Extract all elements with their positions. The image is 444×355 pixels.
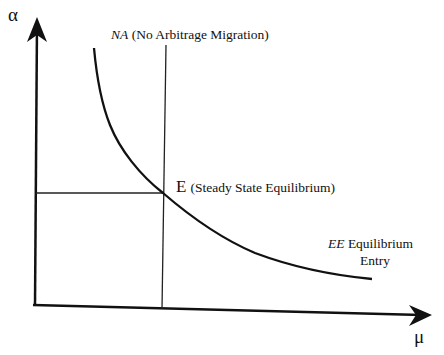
x-axis (33, 305, 422, 315)
ee-abbr: EE (328, 236, 345, 251)
y-axis (35, 24, 37, 305)
equilibrium-description: (Steady State Equilibrium) (190, 180, 335, 195)
x-axis-label: μ (414, 326, 424, 348)
ee-label: EE Equilibrium Entry (328, 235, 413, 269)
na-line (162, 45, 166, 309)
equilibrium-label: E (Steady State Equilibrium) (176, 177, 335, 197)
y-axis-label: α (8, 4, 18, 26)
na-label: NA (No Arbitrage Migration) (111, 27, 269, 43)
na-abbr: NA (111, 27, 128, 42)
equilibrium-abbr: E (176, 177, 186, 196)
na-description: (No Arbitrage Migration) (132, 27, 269, 42)
ee-label-line2: Entry (328, 252, 413, 269)
ee-label-line1: Equilibrium (348, 236, 413, 251)
